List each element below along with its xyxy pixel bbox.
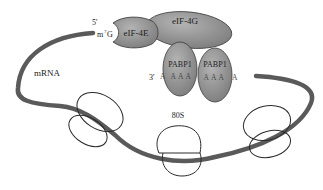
three-prime-label: 3' bbox=[149, 73, 155, 82]
svg-text:m: m bbox=[97, 30, 104, 39]
ribosome-large-subunit bbox=[157, 126, 201, 153]
ribosome-middle bbox=[157, 126, 201, 176]
mrna-strand bbox=[18, 33, 312, 161]
pabp1-left-protein bbox=[163, 42, 197, 96]
five-prime-label: 5' bbox=[92, 18, 98, 27]
ribosome-right bbox=[239, 100, 294, 162]
m7g-cap-label: m 7 G bbox=[97, 29, 113, 39]
eif4g-label: eIF-4G bbox=[172, 16, 198, 26]
pabp1-right-label: PABP1 bbox=[203, 60, 226, 69]
ribosome-label: 80S bbox=[172, 111, 184, 120]
poly-a-start: A bbox=[160, 72, 166, 81]
diagram-canvas: 80S eIF-4G eIF-4E 5' m 7 G PABP1 PABP1 3… bbox=[0, 0, 323, 190]
closed-loop-diagram: 80S eIF-4G eIF-4E 5' m 7 G PABP1 PABP1 3… bbox=[0, 0, 323, 190]
pabp1-left-label: PABP1 bbox=[168, 60, 191, 69]
eif4e-label: eIF-4E bbox=[124, 28, 149, 38]
poly-a-left: A A A bbox=[171, 72, 192, 81]
poly-a-right: A A A bbox=[204, 73, 225, 82]
poly-a-end: A bbox=[232, 73, 238, 82]
mrna-label: mRNA bbox=[34, 68, 61, 78]
svg-text:G: G bbox=[107, 30, 113, 39]
ribosome-small-subunit bbox=[162, 153, 201, 176]
